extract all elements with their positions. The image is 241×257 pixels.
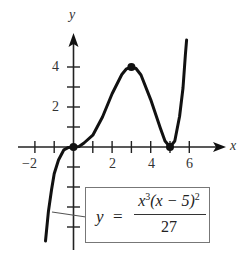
equation-equals: = — [113, 207, 123, 227]
point-origin — [70, 143, 78, 151]
equation-denominator: 27 — [132, 218, 206, 236]
x-tick-label: 6 — [186, 157, 193, 171]
point-local-max — [127, 63, 135, 71]
leader-line — [52, 212, 86, 217]
equation-factor: (x − 5) — [150, 192, 195, 209]
equation-numerator: x3(x − 5)2 — [132, 191, 206, 210]
point-local-min — [166, 143, 174, 151]
equation-lhs: y — [96, 207, 104, 227]
fraction-bar — [134, 214, 206, 215]
x-tick-label: 2 — [109, 157, 116, 171]
x-tick-label: −2 — [22, 157, 37, 171]
y-tick-label: 2 — [52, 100, 59, 114]
x-tick-label: 4 — [148, 157, 155, 171]
y-tick-label: 4 — [52, 60, 59, 74]
x-axis-label: x — [230, 139, 236, 153]
y-axis-label: y — [69, 8, 75, 22]
equation-factor-exponent: 2 — [195, 191, 200, 202]
equation-box: y = x3(x − 5)2 27 — [85, 187, 210, 243]
